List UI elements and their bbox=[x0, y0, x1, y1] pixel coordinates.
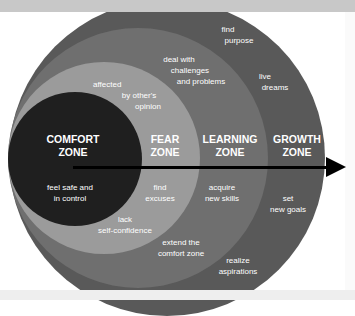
learning-zone-title: LEARNING ZONE bbox=[203, 133, 258, 159]
label-lack-self-confidence: lack self-confidence bbox=[98, 214, 152, 236]
comfort-zone-circle bbox=[8, 92, 142, 226]
label-feel-safe: feel safe and in control bbox=[47, 182, 93, 204]
label-affected-by-opinion: affected by other's opinion bbox=[109, 79, 161, 112]
comfort-zone-title: COMFORT ZONE bbox=[46, 133, 99, 159]
fear-zone-title: FEAR ZONE bbox=[150, 133, 179, 159]
label-realize-aspirations: realize aspirations bbox=[219, 255, 258, 277]
top-band bbox=[0, 0, 355, 12]
label-acquire-new-skills: acquire new skills bbox=[205, 182, 239, 204]
label-find-excuses: find excuses bbox=[145, 182, 174, 204]
progress-arrow-line bbox=[73, 166, 329, 169]
label-find-purpose: find purpose bbox=[217, 24, 254, 46]
label-extend-comfort-zone: extend the comfort zone bbox=[158, 237, 204, 259]
label-deal-with-challenges: deal with challenges and problems bbox=[155, 54, 225, 87]
right-strip bbox=[345, 12, 355, 290]
label-set-new-goals: set new goals bbox=[270, 193, 306, 215]
label-live-dreams: live dreams bbox=[256, 71, 289, 93]
bottom-band bbox=[0, 290, 355, 300]
growth-zone-title: GROWTH ZONE bbox=[273, 133, 321, 159]
arrow-head-icon bbox=[326, 157, 346, 177]
